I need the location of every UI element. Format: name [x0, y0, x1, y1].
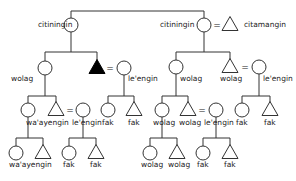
- kin-term-label: fak: [63, 160, 75, 169]
- male-triangle-icon: [169, 145, 185, 159]
- kin-term-label: fak: [224, 160, 236, 169]
- kin-term-label: wolag: [220, 74, 242, 83]
- kin-term-label: wa'ayengin: [9, 160, 52, 169]
- ego-male-triangle-icon: [89, 60, 105, 74]
- kin-term-label: citiningin: [38, 20, 73, 29]
- female-circle-icon: [38, 61, 52, 75]
- female-circle-icon: [143, 146, 157, 160]
- female-circle-icon: [21, 103, 35, 117]
- marriage-equals-icon: =: [213, 20, 221, 30]
- kin-term-label: wa'ayengin: [26, 118, 69, 127]
- kin-term-label: fak: [264, 118, 276, 127]
- female-circle-icon: [235, 103, 249, 117]
- female-circle-icon: [62, 146, 76, 160]
- kin-term-label: fak: [236, 118, 248, 127]
- kin-term-label: wolag: [141, 160, 163, 169]
- kin-term-label: le'engin: [204, 118, 234, 127]
- kin-term-label: wolag: [180, 74, 202, 83]
- kin-term-label: citiningin: [160, 20, 195, 29]
- female-circle-icon: [169, 60, 183, 74]
- male-triangle-icon: [222, 17, 238, 31]
- female-circle-icon: [252, 60, 266, 74]
- marriage-equals-icon: =: [66, 105, 74, 115]
- female-circle-icon: [117, 61, 131, 75]
- kin-term-label: le'engin: [263, 74, 293, 83]
- kin-term-label: wolag: [168, 160, 190, 169]
- kin-term-label: le'engin: [128, 74, 158, 83]
- kinship-diagram: ===== citiningincitiningincitamanginwola…: [0, 0, 296, 181]
- kin-term-label: fak: [102, 118, 114, 127]
- male-triangle-icon: [126, 102, 142, 116]
- male-triangle-icon: [222, 145, 238, 159]
- marriage-equals-icon: =: [241, 62, 249, 72]
- kin-term-label: wolag: [179, 118, 201, 127]
- male-triangle-icon: [48, 102, 64, 116]
- female-circle-icon: [155, 103, 169, 117]
- female-circle-icon: [9, 146, 23, 160]
- kin-term-label: fak: [90, 160, 102, 169]
- female-circle-icon: [209, 103, 223, 117]
- marriage-equals-icon: =: [106, 63, 114, 73]
- female-circle-icon: [197, 18, 211, 32]
- kin-term-label: wolag: [11, 74, 33, 83]
- kin-term-label: fak: [128, 118, 140, 127]
- kin-term-label: wolag: [153, 118, 175, 127]
- male-triangle-icon: [180, 102, 196, 116]
- male-triangle-icon: [262, 102, 278, 116]
- male-triangle-icon: [35, 145, 51, 159]
- kin-term-label: fak: [197, 160, 209, 169]
- female-circle-icon: [76, 103, 90, 117]
- kin-term-label: le'engin: [72, 118, 102, 127]
- marriage-equals-icon: =: [198, 105, 206, 115]
- kin-nodes: [9, 17, 278, 161]
- male-triangle-icon: [222, 59, 238, 73]
- male-triangle-icon: [88, 145, 104, 159]
- female-circle-icon: [101, 103, 115, 117]
- female-circle-icon: [196, 146, 210, 160]
- kin-term-label: citamangin: [244, 20, 286, 29]
